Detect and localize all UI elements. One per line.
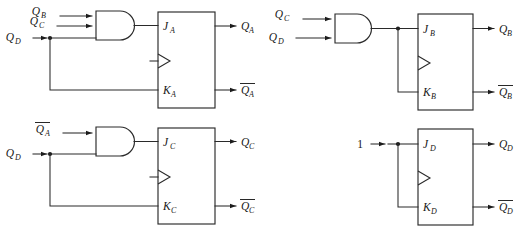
label-const-one-d: 1 [357,138,363,150]
label-qb-a-sub: B [41,11,46,20]
label-jd-base: J [423,138,429,150]
clock-triangle-b [418,56,430,70]
label-kd: K D [422,201,437,216]
label-qcbar: Q C [240,200,255,216]
label-kc-sub: C [171,206,177,215]
label-qd-c-base: Q [6,147,15,159]
and-gate-a [96,11,135,40]
label-qc-out: Q C [241,136,255,151]
label-qabar-c: Q A [35,123,50,139]
label-qbbar: Q B [498,86,513,102]
clock-triangle-c [158,170,170,184]
label-qabar-c-sub: A [44,129,50,138]
label-qb-out-sub: B [507,29,512,38]
label-qc-b-base: Q [275,8,284,20]
label-ja-base: J [163,20,169,32]
label-qc-a-base: Q [30,15,39,27]
wire-qd-to-ka [50,38,158,90]
and-gate-b [335,14,372,43]
label-qb-out: Q B [499,23,512,38]
label-jd-sub: D [429,144,436,153]
label-jc: J C [163,136,176,151]
stage-b-circuit: Q C Q D J B K B Q B Q B [269,8,513,110]
label-qd-b: Q D [269,31,284,46]
wire-const1-to-kd [398,144,418,207]
logic-diagram: Q B Q C Q D J A K A Q A Q A [0,0,527,232]
wire-qd-to-kc [50,154,158,206]
label-qabar: Q A [240,84,255,100]
stage-a-circuit: Q B Q C Q D J A K A Q A Q A [6,5,255,108]
label-qd-b-base: Q [269,31,278,43]
label-qdbar-sub: D [506,207,513,216]
label-qabar-c-base: Q [36,123,45,135]
label-qcbar-sub: C [249,206,255,215]
label-qd-a-sub: D [14,37,21,46]
wire-gate-b-to-kb [398,29,418,93]
label-qc-b-sub: C [284,14,290,23]
label-ka-sub: A [170,90,176,99]
label-ja-sub: A [169,26,175,35]
label-kd-sub: D [430,207,437,216]
label-qc-out-sub: C [249,142,255,151]
label-jc-sub: C [170,142,176,151]
label-qd-out: Q D [499,138,513,153]
stage-c-circuit: Q A Q D J C K C Q C Q C [6,123,255,225]
label-qd-a-base: Q [6,31,15,43]
label-qc-a-sub: C [39,21,45,30]
label-qd-a: Q D [6,31,21,46]
label-qbbar-sub: B [507,92,512,101]
label-kc: K C [162,200,177,215]
label-ka: K A [162,84,176,99]
label-qd-c-sub: D [14,153,21,162]
label-qd-b-sub: D [277,37,284,46]
label-qc-b: Q C [275,8,290,23]
clock-triangle-d [418,171,430,185]
circuit-canvas: Q B Q C Q D J A K A Q A Q A [0,0,527,232]
label-qd-c: Q D [6,147,21,162]
label-qa: Q A [241,20,254,35]
label-qd-out-sub: D [506,144,513,153]
label-ja: J A [163,20,175,35]
label-kb: K B [422,86,436,101]
label-qabar-sub: A [248,90,254,99]
label-kb-sub: B [431,92,436,101]
label-jd: J D [423,138,436,153]
label-jb-sub: B [430,29,435,38]
label-jb-base: J [423,23,429,35]
label-jc-base: J [163,136,169,148]
label-jb: J B [423,23,435,38]
stage-d-circuit: 1 J D K D Q D Q D [357,129,513,225]
clock-triangle-a [158,54,170,68]
label-qa-sub: A [248,26,254,35]
label-qdbar: Q D [498,201,513,217]
and-gate-c [96,127,135,156]
